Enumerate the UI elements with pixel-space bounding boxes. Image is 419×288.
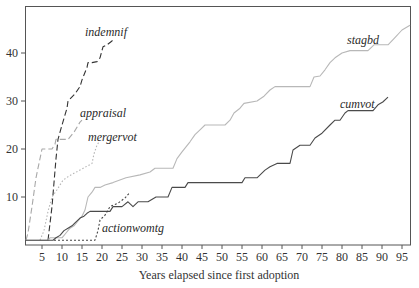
series-label-stagbd: stagbd bbox=[347, 33, 380, 47]
x-tick-label: 40 bbox=[176, 250, 188, 264]
x-tick-label: 85 bbox=[356, 250, 368, 264]
x-tick-label: 65 bbox=[276, 250, 288, 264]
y-tick-label: 10 bbox=[6, 190, 18, 204]
x-axis-title: Years elapsed since first adoption bbox=[139, 268, 300, 282]
x-tick-label: 80 bbox=[336, 250, 348, 264]
x-tick-label: 25 bbox=[116, 250, 128, 264]
x-tick-label: 35 bbox=[156, 250, 168, 264]
series-layer bbox=[26, 25, 410, 240]
x-tick-label: 15 bbox=[76, 250, 88, 264]
y-tick-label: 20 bbox=[6, 142, 18, 156]
x-tick-label: 50 bbox=[216, 250, 228, 264]
x-tick-label: 20 bbox=[96, 250, 108, 264]
series-label-appraisal: appraisal bbox=[80, 106, 127, 120]
y-tick-label: 40 bbox=[6, 46, 18, 60]
line-chart: 10203040 5101520253035404550556065707580… bbox=[0, 0, 419, 288]
x-tick-label: 10 bbox=[56, 250, 68, 264]
x-tick-label: 90 bbox=[376, 250, 388, 264]
x-tick-label: 30 bbox=[136, 250, 148, 264]
x-tick-label: 95 bbox=[396, 250, 408, 264]
x-axis: 5101520253035404550556065707580859095 bbox=[39, 245, 408, 264]
series-line-mergervot bbox=[40, 142, 99, 240]
x-tick-label: 45 bbox=[196, 250, 208, 264]
x-tick-label: 70 bbox=[296, 250, 308, 264]
series-label-mergervot: mergervot bbox=[88, 130, 138, 144]
series-label-cumvot: cumvot bbox=[340, 97, 375, 111]
y-axis: 10203040 bbox=[6, 46, 26, 204]
series-label-indemnif: indemnif bbox=[85, 25, 129, 39]
x-tick-label: 55 bbox=[236, 250, 248, 264]
series-label-actionwomtg: actionwomtg bbox=[102, 221, 164, 235]
x-tick-label: 60 bbox=[256, 250, 268, 264]
y-tick-label: 30 bbox=[6, 94, 18, 108]
chart: 10203040 5101520253035404550556065707580… bbox=[0, 0, 419, 288]
x-tick-label: 75 bbox=[316, 250, 328, 264]
series-line-appraisal bbox=[26, 120, 82, 240]
x-tick-label: 5 bbox=[39, 250, 45, 264]
series-line-stagbd bbox=[26, 25, 410, 240]
